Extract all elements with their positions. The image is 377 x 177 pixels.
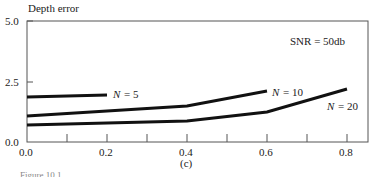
- y-tick-label: 2.5: [5, 76, 19, 88]
- svg-text:N: N: [271, 86, 280, 98]
- series-label-n20: N = 20: [326, 100, 358, 112]
- svg-text:= 20: = 20: [338, 100, 358, 112]
- y-axis-ticks: 5.0 2.5 0.0: [5, 15, 33, 148]
- svg-text:= 5: = 5: [124, 88, 139, 100]
- x-tick-label: 0.6: [259, 146, 273, 158]
- snr-annotation: SNR = 50db: [290, 35, 346, 47]
- series-label-n5: N = 5: [112, 88, 139, 100]
- x-tick-label: 0.2: [99, 146, 113, 158]
- x-tick-label: 0.0: [19, 146, 33, 158]
- x-axis-ticks: [67, 134, 347, 142]
- depth-error-chart: Depth error 5.0 2.5 0.0 0.0 0.2 0.4 0.6 …: [0, 0, 377, 177]
- subplot-label: (c): [180, 157, 193, 170]
- svg-text:= 10: = 10: [283, 86, 303, 98]
- svg-text:N: N: [112, 88, 121, 100]
- x-tick-label: 0.8: [339, 146, 353, 158]
- y-tick-label: 0.0: [5, 136, 19, 148]
- figure-caption-partial: Figure 10.1...: [20, 170, 68, 177]
- y-tick-label: 5.0: [5, 15, 19, 27]
- svg-text:N: N: [326, 100, 335, 112]
- series-line-n5: [27, 95, 107, 97]
- series-label-n10: N = 10: [271, 86, 303, 98]
- y-axis-label: Depth error: [28, 2, 79, 14]
